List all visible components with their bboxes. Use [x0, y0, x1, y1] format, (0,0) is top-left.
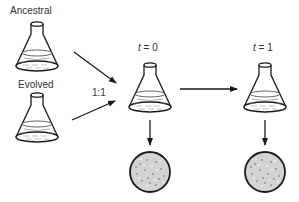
- flask-ancestral-icon: [16, 22, 58, 71]
- label-t0: t = 0: [138, 42, 158, 53]
- label-t0-value: = 0: [141, 42, 158, 53]
- plate-t0-icon: [130, 152, 170, 192]
- label-t1: t = 1: [253, 42, 273, 53]
- plate-t1-icon: [245, 152, 285, 192]
- label-t1-value: = 1: [256, 42, 273, 53]
- arrow-evolved-to-mix-icon: [72, 101, 115, 120]
- arrow-ancestral-to-mix-icon: [74, 52, 116, 83]
- flask-t0-icon: [129, 63, 171, 112]
- flask-evolved-icon: [16, 93, 58, 142]
- label-ancestral: Ancestral: [10, 5, 52, 16]
- flask-t1-icon: [244, 63, 286, 112]
- label-ratio: 1:1: [92, 87, 106, 98]
- diagram-canvas: [0, 0, 299, 202]
- label-evolved: Evolved: [18, 79, 54, 90]
